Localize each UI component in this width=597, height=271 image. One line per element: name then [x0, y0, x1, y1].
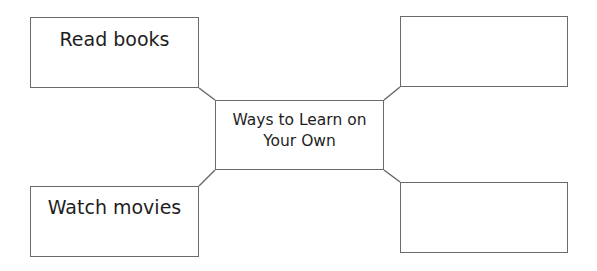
branch-box-bottom-right[interactable]: [400, 182, 568, 253]
connector-bottom-left: [199, 170, 215, 186]
connector-bottom-right: [384, 170, 400, 182]
branch-box-bottom-left[interactable]: Watch movies: [30, 186, 199, 257]
center-topic-box: Ways to Learn on Your Own: [215, 100, 384, 170]
center-topic-line-1: Ways to Learn on: [216, 110, 383, 131]
connector-top-right: [384, 87, 400, 100]
branch-label-top-left: Read books: [31, 27, 198, 51]
center-topic-line-2: Your Own: [216, 131, 383, 152]
branch-label-bottom-left: Watch movies: [31, 195, 198, 219]
branch-box-top-right[interactable]: [400, 16, 568, 87]
connector-top-left: [199, 88, 215, 100]
branch-box-top-left[interactable]: Read books: [30, 17, 199, 88]
spider-map-diagram: Read books Ways to Learn on Your Own Wat…: [0, 0, 597, 271]
